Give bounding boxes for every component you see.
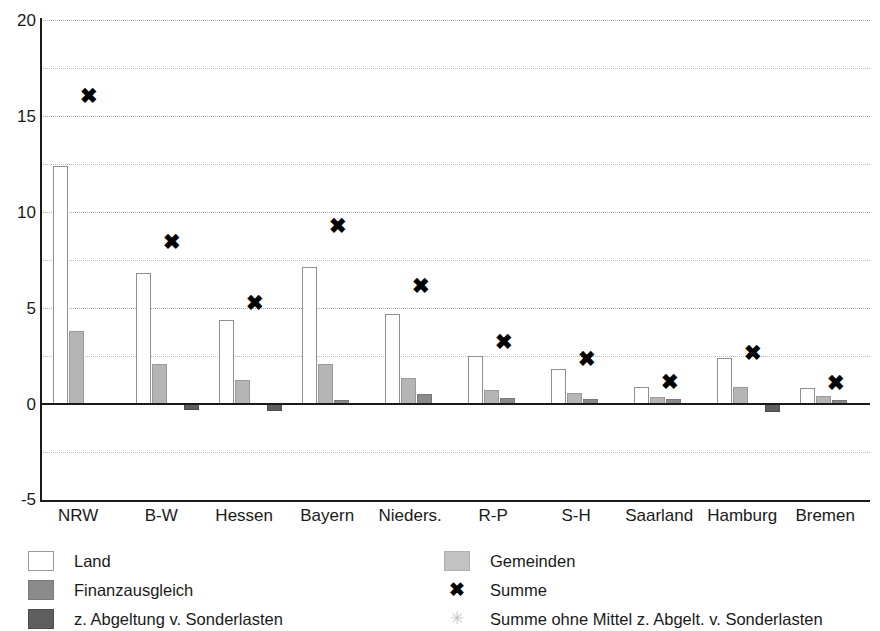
bar-land (136, 273, 151, 404)
legend-label-summe-ohne: Summe ohne Mittel z. Abgelt. v. Sonderla… (490, 610, 823, 629)
bar-sonder (267, 404, 282, 411)
y-tick-label-15: 15 (0, 107, 36, 127)
bar-land (302, 267, 317, 404)
category-label: Bremen (795, 506, 855, 526)
summe-marker-icon: ✖ (444, 580, 470, 600)
bar-group (787, 20, 870, 500)
y-tick-label-5: 5 (0, 299, 36, 319)
legend-label-land: Land (74, 552, 111, 571)
bar-group (123, 20, 206, 500)
category-label: Saarland (625, 506, 693, 526)
bar-group (455, 20, 538, 500)
y-tick-label-0: 0 (0, 395, 36, 415)
category-label: B-W (145, 506, 178, 526)
summe-marker: ✖ (163, 230, 181, 251)
zero-axis-line (40, 403, 870, 405)
summe-marker: ✖ (246, 292, 264, 313)
bar-group (704, 20, 787, 500)
x-axis-baseline (40, 500, 870, 502)
legend-column-left: Land Finanzausgleich z. Abgeltung v. Son… (28, 548, 283, 631)
chart-legend: Land Finanzausgleich z. Abgeltung v. Son… (0, 548, 880, 628)
bar-group (538, 20, 621, 500)
bar-gemeinden (235, 380, 250, 404)
summe-marker: ✖ (329, 215, 347, 236)
y-tick-label-20: 20 (0, 11, 36, 31)
legend-label-sonderlasten: z. Abgeltung v. Sonderlasten (74, 610, 283, 629)
legend-item-land: Land (28, 548, 283, 574)
y-tick-label-neg5: -5 (0, 490, 36, 510)
bar-land (219, 320, 234, 404)
legend-item-gemeinden: Gemeinden (444, 548, 823, 574)
bar-land (385, 314, 400, 404)
legend-label-summe: Summe (490, 581, 547, 600)
bar-land (53, 166, 68, 404)
bar-gemeinden (69, 331, 84, 404)
bar-group (621, 20, 704, 500)
bar-gemeinden (318, 364, 333, 404)
finanzausgleich-swatch (28, 580, 54, 600)
category-label: NRW (58, 506, 98, 526)
legend-label-gemeinden: Gemeinden (490, 552, 575, 571)
summe-marker: ✖ (827, 371, 845, 392)
bar-land (800, 388, 815, 404)
legend-column-right: Gemeinden ✖ Summe ✳ Summe ohne Mittel z.… (444, 548, 823, 631)
summe-marker: ✖ (495, 330, 513, 351)
bar-gemeinden (152, 364, 167, 404)
legend-item-sonderlasten: z. Abgeltung v. Sonderlasten (28, 606, 283, 631)
legend-item-summe-ohne: ✳ Summe ohne Mittel z. Abgelt. v. Sonder… (444, 606, 823, 631)
legend-item-finanzausgleich: Finanzausgleich (28, 577, 283, 603)
bar-land (551, 369, 566, 404)
category-label: Bayern (300, 506, 354, 526)
bar-sonder (765, 404, 780, 412)
category-label: Hamburg (707, 506, 777, 526)
bar-gemeinden (401, 378, 416, 404)
summe-marker: ✖ (661, 370, 679, 391)
bar-land (634, 387, 649, 404)
land-swatch (28, 551, 54, 571)
gemeinden-swatch (444, 551, 470, 571)
summe-marker: ✖ (578, 347, 596, 368)
bar-gemeinden (484, 390, 499, 404)
y-tick-label-10: 10 (0, 203, 36, 223)
category-label: S-H (562, 506, 591, 526)
bar-land (468, 356, 483, 404)
bar-gemeinden (733, 387, 748, 404)
category-label: Hessen (215, 506, 273, 526)
summe-marker: ✖ (744, 342, 762, 363)
sonderlasten-swatch (28, 609, 54, 629)
legend-item-summe: ✖ Summe (444, 577, 823, 603)
category-label: Nieders. (379, 506, 442, 526)
summe-marker: ✖ (412, 274, 430, 295)
bar-group (206, 20, 289, 500)
bar-land (717, 358, 732, 404)
bar-group (372, 20, 455, 500)
summe-ohne-marker-icon: ✳ (444, 609, 470, 629)
legend-label-finanzausgleich: Finanzausgleich (74, 581, 193, 600)
summe-marker: ✖ (80, 84, 98, 105)
bar-chart: 20 15 10 5 0 -5 ✖✖✖✖✖✖✖✖✖✖ NRWB-WHessenB… (0, 0, 880, 631)
category-label: R-P (479, 506, 508, 526)
bar-group (289, 20, 372, 500)
